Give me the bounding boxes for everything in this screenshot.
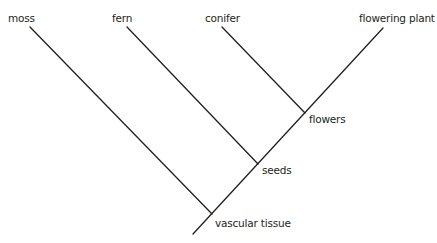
taxon-label-moss: moss [8, 12, 35, 24]
taxon-label-conifer: conifer [205, 12, 240, 24]
conifer-branch-line [222, 27, 305, 113]
trait-label-seeds: seeds [262, 164, 292, 176]
fern-branch-line [127, 27, 258, 164]
cladogram: moss fern conifer flowering plant flower… [0, 0, 437, 243]
main-trunk-line [193, 28, 383, 234]
cladogram-lines [0, 0, 437, 243]
moss-branch-line [30, 27, 212, 214]
taxon-label-flowering-plant: flowering plant [359, 12, 435, 24]
trait-label-vascular-tissue: vascular tissue [215, 217, 291, 229]
trait-label-flowers: flowers [309, 113, 345, 125]
taxon-label-fern: fern [112, 12, 132, 24]
